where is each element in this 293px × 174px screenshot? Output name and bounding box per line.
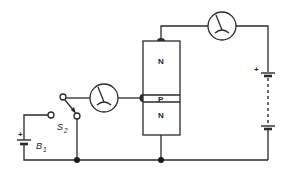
transistor-body [143,41,180,135]
junction-dot-right [158,157,164,163]
battery-b1-plus: + [18,130,23,139]
wire-top-left [161,26,208,41]
base-circuit [66,84,143,112]
battery-right-plus: + [254,65,259,74]
battery-b1-subscript: 1 [43,146,47,153]
galvanometer-icon [90,84,118,112]
battery-b1-label: B [36,141,42,151]
ground-rail [24,135,268,163]
transistor: N P N [143,41,180,135]
battery-b1: + B 1 [17,130,47,153]
contact-base [140,94,144,102]
contact-top [157,38,165,41]
region-n-bottom-label: N [158,111,164,120]
galvanometer-icon [208,12,236,40]
circuit-diagram: N P N + [0,0,293,174]
wire-bottom [24,148,268,160]
region-n-top-label: N [158,57,164,66]
region-p-label: P [158,95,164,104]
switch-s2: S 2 [24,94,80,160]
collector-circuit [157,12,268,72]
switch-subscript: 2 [63,127,68,134]
switch-label: S [57,122,63,132]
battery-right: + [254,65,275,160]
wire-top-right [236,26,268,72]
